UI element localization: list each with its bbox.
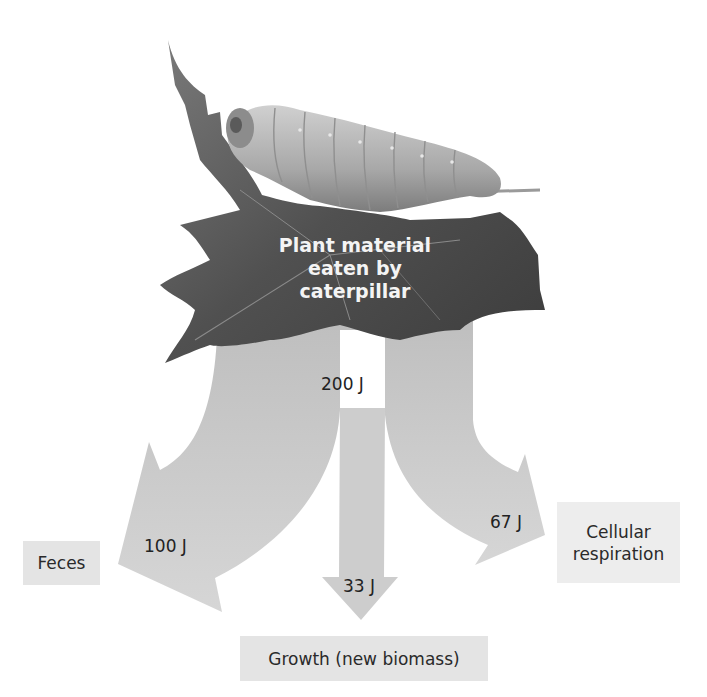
source-label: Plant material eaten by caterpillar — [255, 234, 455, 303]
respiration-label-line1: Cellular — [586, 521, 651, 543]
feces-arrow — [118, 300, 340, 612]
caterpillar-illustration — [226, 105, 540, 212]
source-label-line1: Plant material — [255, 234, 455, 257]
growth-energy-value: 33 J — [343, 576, 375, 597]
feces-label: Feces — [38, 552, 86, 574]
energy-flow-diagram: Plant material eaten by caterpillar 200 … — [0, 0, 707, 697]
feces-energy-value: 100 J — [144, 536, 187, 557]
respiration-label-line2: respiration — [573, 543, 664, 565]
growth-label-box: Growth (new biomass) — [240, 636, 488, 681]
growth-label: Growth (new biomass) — [268, 648, 459, 670]
input-energy-value: 200 J — [321, 374, 364, 395]
feces-label-box: Feces — [23, 541, 100, 585]
source-label-line2: eaten by caterpillar — [255, 257, 455, 303]
respiration-label-box: Cellular respiration — [557, 502, 680, 583]
respiration-energy-value: 67 J — [490, 512, 522, 533]
